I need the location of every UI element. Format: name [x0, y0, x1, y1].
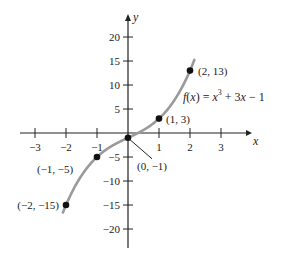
x-tick-label: 1	[156, 141, 162, 153]
y-tick-label: −20	[103, 223, 121, 235]
y-tick-label: 5	[115, 103, 121, 115]
y-tick-label: −10	[103, 175, 121, 187]
function-label: f(x) = x3 + 3x − 1	[183, 88, 265, 104]
axes: xy−3−2−11232015105−5−10−15−20	[20, 10, 259, 248]
x-tick-label: −2	[60, 141, 72, 153]
point-label: (1, 3)	[166, 113, 190, 126]
point-label: (0, −1)	[137, 160, 167, 173]
point-label: (−1, −5)	[37, 163, 74, 176]
y-tick-label: 15	[109, 55, 121, 67]
labeled-points: (−2, −15)(−1, −5)(0, −1)(1, 3)(2, 13)	[17, 65, 227, 212]
data-point	[63, 202, 70, 209]
y-axis-arrow-icon	[125, 14, 131, 21]
data-point	[156, 115, 163, 122]
y-tick-label: 10	[109, 79, 121, 91]
y-tick-label: −15	[103, 199, 121, 211]
y-tick-label: 20	[109, 31, 121, 43]
point-label: (2, 13)	[198, 65, 228, 78]
x-axis-label: x	[252, 134, 259, 148]
x-tick-label: 3	[218, 141, 224, 153]
leader-line	[129, 139, 152, 159]
x-tick-label: −3	[29, 141, 41, 153]
function-graph: xy−3−2−11232015105−5−10−15−20 (−2, −15)(…	[0, 0, 289, 259]
x-tick-label: 2	[187, 141, 193, 153]
y-tick-label: −5	[108, 151, 120, 163]
y-axis-label: y	[132, 10, 139, 24]
point-label: (−2, −15)	[17, 199, 59, 212]
data-point	[94, 154, 101, 161]
x-axis-arrow-icon	[246, 130, 252, 136]
x-tick-label: −1	[91, 141, 103, 153]
data-point	[187, 67, 194, 74]
